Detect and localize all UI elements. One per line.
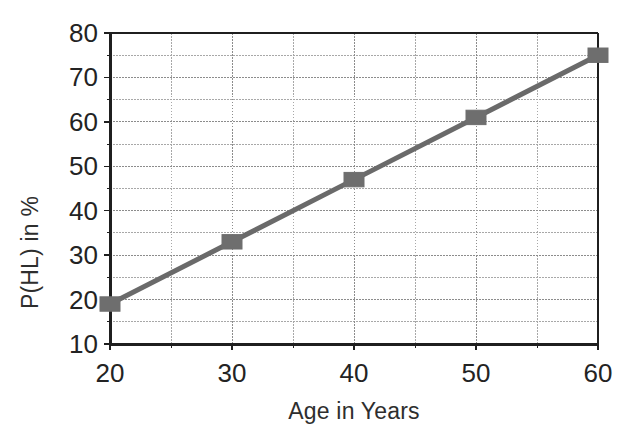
plot-area [0,0,643,447]
chart-container: P(HL) in % Age in Years 1020304050607080… [0,0,643,447]
axis-tickmarks [104,33,598,350]
